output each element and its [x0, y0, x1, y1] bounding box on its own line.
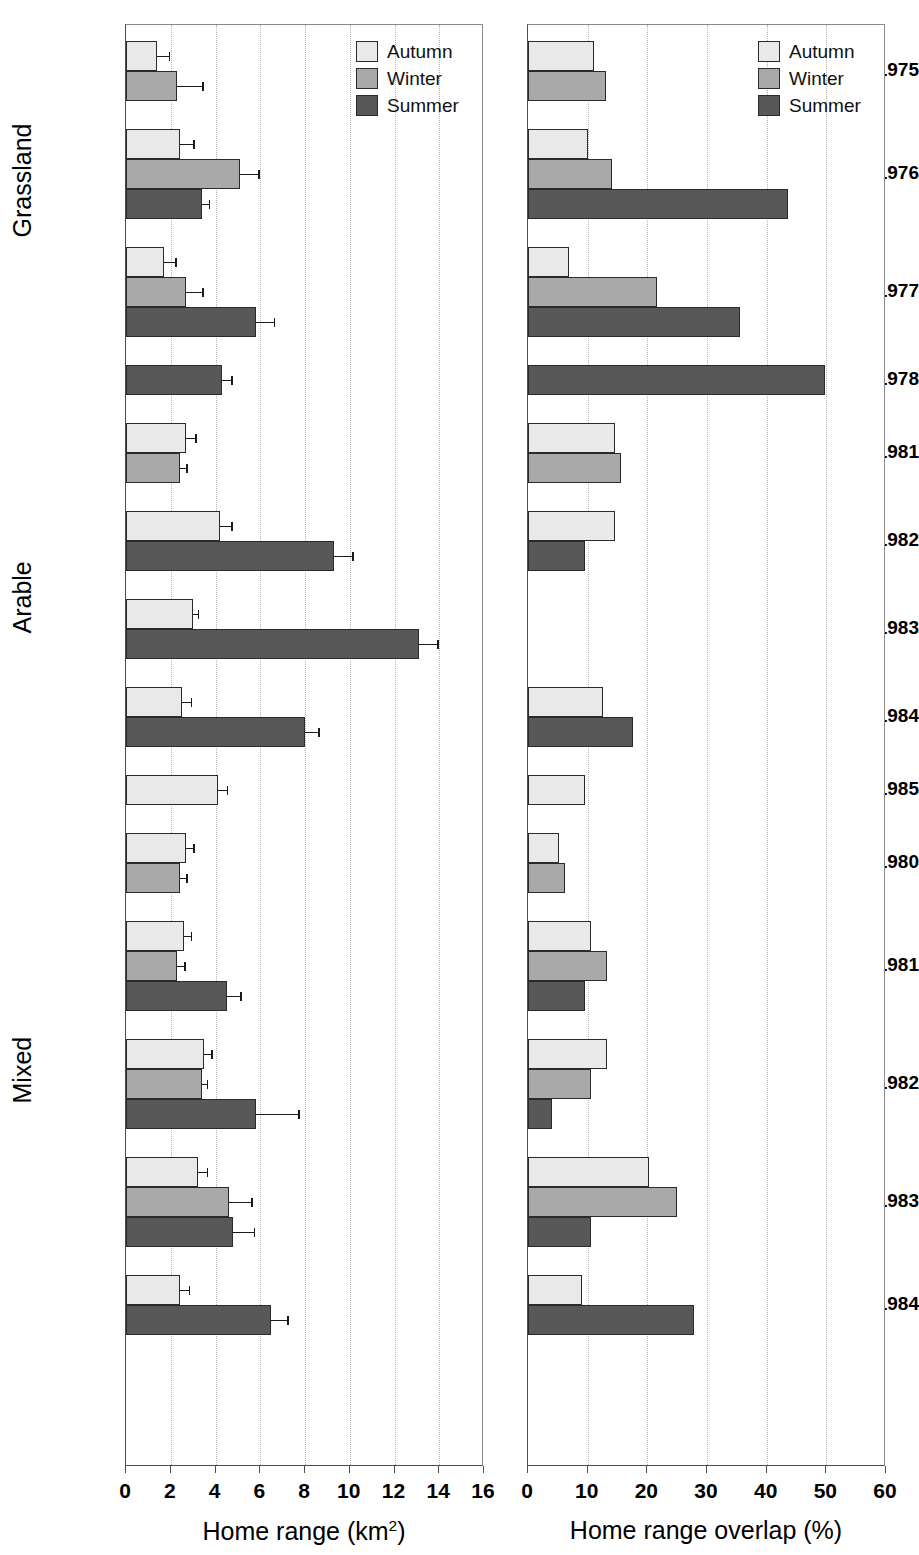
bar-grassland-1977-summer: [126, 307, 256, 337]
bar-mixed-1984-autumn: [126, 1275, 180, 1305]
bar-grassland-1976-summer: [528, 189, 788, 219]
error-bar-cap: [193, 844, 195, 853]
legend-item-autumn: Autumn: [356, 39, 459, 63]
bar-mixed-1981-autumn: [126, 921, 184, 951]
x-tick-label: 8: [281, 1480, 327, 1501]
error-bar-cap: [207, 1168, 209, 1177]
x-tick: [527, 1466, 528, 1473]
error-bar: [164, 262, 175, 263]
bar-mixed-1980-autumn: [528, 833, 559, 863]
x-tick-label: 12: [371, 1480, 417, 1501]
x-tick: [259, 1466, 260, 1473]
x-tick-label: 14: [415, 1480, 461, 1501]
error-bar-cap: [318, 728, 320, 737]
error-bar-cap: [231, 376, 233, 385]
x-axis-title-right: Home range overlap (%): [527, 1518, 885, 1543]
bar-arable-1984-autumn: [528, 687, 603, 717]
bar-grassland-1977-autumn: [126, 247, 164, 277]
bar-grassland-1978-summer: [528, 365, 825, 395]
chart-figure: Grassland Arable Mixed 19751976197719781…: [0, 0, 919, 1555]
bar-grassland-1976-winter: [126, 159, 240, 189]
bar-grassland-1978-summer: [126, 365, 222, 395]
x-tick-label: 6: [236, 1480, 282, 1501]
x-tick-label: 10: [564, 1480, 610, 1501]
x-tick: [766, 1466, 767, 1473]
bar-arable-1982-summer: [126, 541, 334, 571]
bar-mixed-1980-autumn: [126, 833, 186, 863]
bar-mixed-1984-summer: [126, 1305, 271, 1335]
x-tick-label: 0: [504, 1480, 550, 1501]
bar-arable-1981-winter: [126, 453, 180, 483]
error-bar: [184, 936, 191, 937]
bars-home-range-overlap: [528, 25, 884, 1465]
bar-mixed-1984-autumn: [528, 1275, 582, 1305]
legend-item-summer: Summer: [356, 93, 459, 117]
bar-grassland-1976-autumn: [126, 129, 180, 159]
bar-arable-1984-summer: [126, 717, 305, 747]
error-bar-cap: [231, 522, 233, 531]
bar-mixed-1982-winter: [126, 1069, 202, 1099]
bars-home-range: [126, 25, 482, 1465]
error-bar-cap: [184, 962, 186, 971]
error-bar: [305, 732, 318, 733]
bar-mixed-1983-winter: [528, 1187, 677, 1217]
legend-swatch-winter: [758, 68, 780, 89]
bar-grassland-1975-autumn: [126, 41, 157, 71]
error-bar: [177, 86, 202, 87]
error-bar: [202, 204, 209, 205]
x-tick: [825, 1466, 826, 1473]
error-bar: [186, 848, 193, 849]
x-tick: [706, 1466, 707, 1473]
bar-mixed-1982-summer: [126, 1099, 256, 1129]
error-bar-cap: [254, 1228, 256, 1237]
error-bar: [256, 322, 274, 323]
bar-arable-1981-autumn: [528, 423, 615, 453]
error-bar: [198, 1172, 207, 1173]
error-bar: [256, 1114, 299, 1115]
x-tick-label: 50: [802, 1480, 848, 1501]
bar-mixed-1980-winter: [528, 863, 565, 893]
legend-swatch-winter: [356, 68, 378, 89]
x-tick: [438, 1466, 439, 1473]
error-bar-cap: [240, 992, 242, 1001]
error-bar-cap: [258, 170, 260, 179]
error-bar-cap: [209, 200, 211, 209]
panel-home-range-overlap: AutumnWinterSummer: [527, 24, 885, 1466]
bar-grassland-1976-summer: [126, 189, 202, 219]
error-bar: [186, 438, 195, 439]
error-bar-cap: [186, 464, 188, 473]
bar-arable-1984-summer: [528, 717, 633, 747]
legend-item-winter: Winter: [758, 66, 861, 90]
bar-mixed-1982-summer: [528, 1099, 552, 1129]
legend-swatch-summer: [356, 95, 378, 116]
x-tick: [646, 1466, 647, 1473]
bar-arable-1985-autumn: [126, 775, 218, 805]
error-bar-cap: [202, 82, 204, 91]
legend-right: AutumnWinterSummer: [758, 39, 861, 117]
error-bar: [180, 144, 193, 145]
error-bar: [180, 468, 187, 469]
habitat-label-mixed: Mixed: [0, 1067, 44, 1096]
x-tick: [394, 1466, 395, 1473]
bar-mixed-1981-summer: [528, 981, 585, 1011]
error-bar: [240, 174, 258, 175]
x-tick: [304, 1466, 305, 1473]
bar-arable-1981-autumn: [126, 423, 186, 453]
habitat-label-arable: Arable: [0, 597, 44, 626]
error-bar: [419, 644, 437, 645]
x-tick: [125, 1466, 126, 1473]
legend-left: AutumnWinterSummer: [356, 39, 459, 117]
bar-mixed-1983-autumn: [126, 1157, 198, 1187]
bar-mixed-1981-summer: [126, 981, 227, 1011]
bar-grassland-1976-winter: [528, 159, 612, 189]
x-tick: [215, 1466, 216, 1473]
error-bar: [222, 380, 231, 381]
error-bar-cap: [274, 318, 276, 327]
bar-arable-1984-autumn: [126, 687, 182, 717]
bar-grassland-1977-winter: [528, 277, 657, 307]
error-bar: [177, 966, 184, 967]
error-bar-cap: [191, 698, 193, 707]
legend-label: Winter: [789, 69, 844, 88]
bar-arable-1983-autumn: [126, 599, 193, 629]
bar-arable-1985-autumn: [528, 775, 585, 805]
